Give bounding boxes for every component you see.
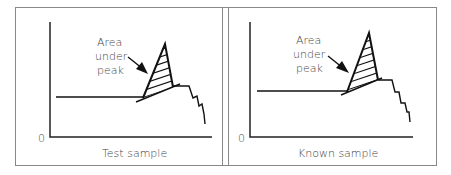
arrow-icon — [328, 56, 349, 73]
tangent-line — [341, 78, 382, 95]
origin-label: 0 — [38, 132, 45, 145]
peak — [143, 44, 173, 98]
peak-hatching — [335, 25, 395, 101]
axes — [50, 22, 212, 137]
trailing-signal — [173, 86, 205, 124]
annotation-line-2: under — [95, 50, 128, 63]
panel-frame — [223, 8, 437, 166]
annotation-line-1: Area — [97, 36, 122, 49]
trailing-signal — [378, 80, 410, 122]
panel-frame — [16, 8, 229, 166]
annotation-line-3: peak — [97, 64, 124, 77]
annotation-line-3: peak — [296, 62, 323, 75]
origin-label: 0 — [238, 132, 245, 145]
peak — [347, 33, 378, 92]
annotation-line-2: under — [293, 48, 326, 61]
annotation-line-1: Area — [296, 34, 321, 47]
panel-test-sample: 0 Test sample Area under peak — [16, 8, 229, 166]
x-axis-caption: Known sample — [298, 147, 378, 160]
arrow-icon — [128, 57, 148, 74]
diagram: 0 Test sample Area under peak 0 Known sa… — [0, 0, 451, 175]
panel-known-sample: 0 Known sample Area under peak — [223, 8, 437, 166]
x-axis-caption: Test sample — [102, 147, 167, 160]
